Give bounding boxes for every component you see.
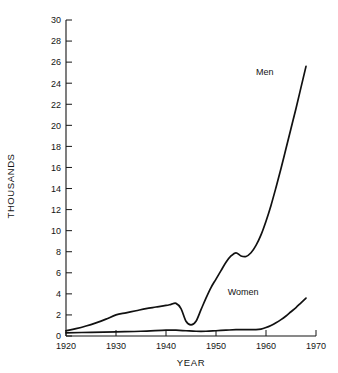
y-tick-label: 6 — [56, 268, 61, 278]
y-tick-label: 20 — [51, 121, 61, 131]
y-tick-label: 24 — [51, 79, 61, 89]
x-tick-label: 1950 — [206, 341, 226, 351]
y-tick-label: 18 — [51, 142, 61, 152]
y-tick-label: 0 — [56, 331, 61, 341]
x-tick-label: 1930 — [106, 341, 126, 351]
series-line-men — [66, 66, 306, 330]
y-tick-label: 16 — [51, 163, 61, 173]
series-label-men: Men — [256, 67, 274, 77]
y-tick-label: 4 — [56, 289, 61, 299]
x-tick-label: 1970 — [306, 341, 326, 351]
y-tick-label: 26 — [51, 57, 61, 67]
y-tick-label: 30 — [51, 15, 61, 25]
series-line-women — [66, 298, 306, 333]
y-tick-label: 8 — [56, 247, 61, 257]
x-axis: 192019301940195019601970 — [56, 330, 326, 351]
y-tick-label: 2 — [56, 310, 61, 320]
y-tick-label: 10 — [51, 226, 61, 236]
x-axis-title: YEAR — [177, 357, 205, 368]
series-annotations: MenWomen — [228, 67, 274, 297]
x-tick-label: 1920 — [56, 341, 76, 351]
y-axis: 024681012141618202224262830 — [51, 15, 72, 341]
line-chart: 024681012141618202224262830 192019301940… — [0, 0, 338, 373]
x-tick-label: 1940 — [156, 341, 176, 351]
y-tick-label: 22 — [51, 100, 61, 110]
x-tick-label: 1960 — [256, 341, 276, 351]
y-tick-label: 12 — [51, 205, 61, 215]
y-tick-label: 14 — [51, 184, 61, 194]
chart-container: 024681012141618202224262830 192019301940… — [0, 0, 338, 373]
y-tick-label: 28 — [51, 36, 61, 46]
series-label-women: Women — [228, 287, 259, 297]
series-lines — [66, 66, 306, 332]
y-axis-title: THOUSANDS — [5, 153, 16, 218]
